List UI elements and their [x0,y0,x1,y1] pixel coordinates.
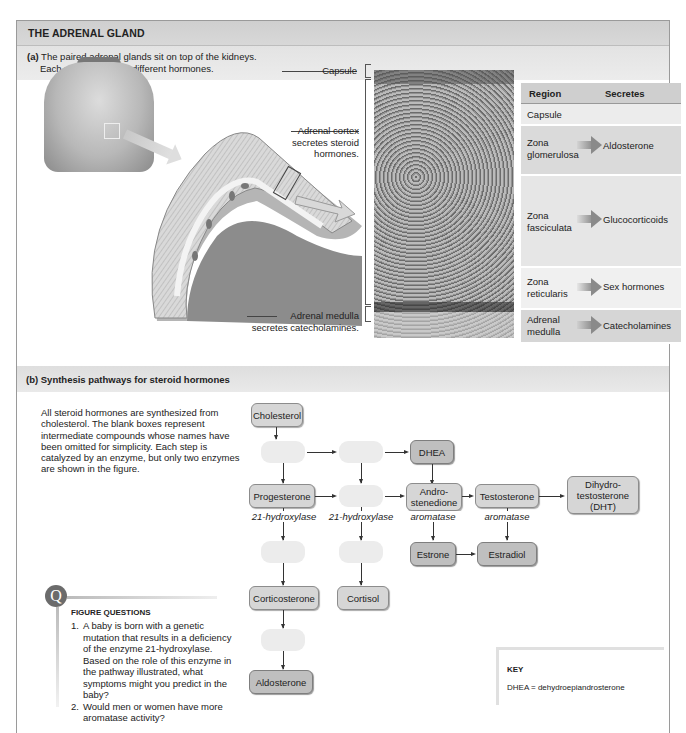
arrow-icon [577,210,603,228]
table-header-region: Region [529,88,561,99]
micrograph-image [374,70,514,338]
table-row: Zonaglomerulosa Aldosterone [521,126,681,176]
node-estrone: Estrone [410,542,456,566]
questions-divider [67,596,217,599]
table-header: Region Secretes [521,83,681,104]
node-blank [339,485,383,507]
region-secretes-table: Region Secretes Capsule Zonaglomerulosa … [521,83,681,344]
section-b-title: (b) Synthesis pathways for steroid hormo… [26,374,230,385]
key-definition: DHEA = dehydroepiandrosterone [507,683,625,692]
node-blank [339,441,383,463]
arrowhead [404,450,409,454]
node-progesterone: Progesterone [249,484,315,508]
node-dht: Dihydro-testosterone(DHT) [567,476,639,514]
node-cortisol: Cortisol [337,586,389,610]
connector [385,452,405,453]
figure-title-bar: THE ADRENAL GLAND [17,21,669,46]
adrenal-cortex-label: Adrenal cortex secretes steroid hormones… [279,125,359,160]
arrowhead [332,450,337,454]
node-blank [261,629,305,651]
arrow-icon [577,316,603,334]
adrenal-medulla-label: Adrenal medulla secretes catecholamines. [247,310,359,333]
arrowhead [332,494,337,498]
questions-list: 1. A baby is born with a genetic mutatio… [71,620,236,724]
capsule-label: Capsule [297,65,357,77]
node-blank [339,541,383,563]
arrowhead [431,536,435,541]
table-header-secretes: Secretes [605,88,645,99]
enzyme-label-aromatase: aromatase [479,511,535,522]
micrograph-dark-band [374,302,514,312]
connector [307,452,333,453]
arrowhead [359,479,363,484]
arrow-icon [577,278,603,296]
key-box: KEY DHEA = dehydroepiandrosterone [496,647,664,705]
figure-frame: THE ADRENAL GLAND (a) The paired adrenal… [16,20,670,733]
connector [539,496,561,497]
arrowhead [505,536,509,541]
enzyme-label-21-hydroxylase: 21-hydroxylase [243,511,325,522]
key-title: KEY [507,665,523,674]
node-androstenedione: Andro-stenedione [406,483,462,511]
enzyme-label-21-hydroxylase: 21-hydroxylase [320,511,402,522]
questions-title: FIGURE QUESTIONS [71,608,151,617]
table-row: Adrenalmedulla Catecholamines [521,310,681,344]
question-item: 1. A baby is born with a genetic mutatio… [71,620,236,701]
kidney-highlight-box [104,123,120,139]
node-blank [261,441,305,463]
section-a-caption-line1: The paired adrenal glands sit on top of … [41,51,256,62]
arrowhead [400,494,405,498]
arrowhead [274,435,278,440]
arrowhead [560,494,565,498]
connector [385,496,401,497]
node-aldosterone: Aldosterone [249,670,313,694]
section-b-intro: All steroid hormones are synthesized fro… [41,407,241,475]
micrograph-medulla-layer [374,312,514,338]
node-blank [261,541,305,563]
node-corticosterone: Corticosterone [249,586,319,610]
torso-body-shape [44,62,154,172]
capsule-bracket [365,64,371,78]
node-cholesterol: Cholesterol [251,403,303,427]
question-icon: Q [45,585,67,607]
table-row: Capsule [521,104,681,126]
questions-sidebar-line [56,607,59,707]
micrograph-capsule-layer [374,70,514,84]
arrowhead [469,494,474,498]
table-row: Zonareticularis Sex hormones [521,268,681,310]
section-a-label: (a) [27,51,39,62]
arrowhead [471,552,476,556]
figure-title: THE ADRENAL GLAND [28,27,145,39]
cortex-bracket [365,79,371,305]
section-b-header: (b) Synthesis pathways for steroid hormo… [17,366,669,392]
node-estradiol: Estradiol [477,542,537,566]
connector [315,496,333,497]
question-item: 2. Would men or women have more aromatas… [71,701,236,724]
enzyme-label-aromatase: aromatase [405,511,461,522]
table-row: Zonafasciculata Glucocorticoids [521,176,681,268]
connector [456,554,472,555]
node-dhea: DHEA [410,440,454,464]
arrow-icon [577,136,603,154]
node-testosterone: Testosterone [475,484,539,508]
medulla-bracket [365,306,371,322]
